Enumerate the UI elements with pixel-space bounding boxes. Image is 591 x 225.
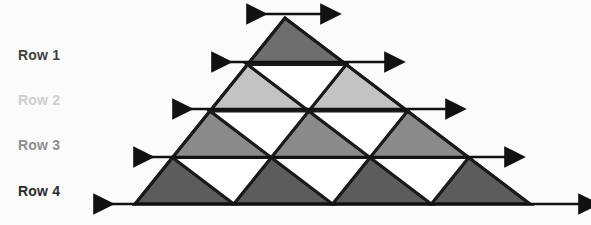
triangle-fills: [135, 18, 530, 204]
row-label-4-text: Row 4: [18, 183, 60, 199]
row-label-2: Row 2: [18, 92, 60, 108]
triangle-diagram-svg: [0, 0, 591, 225]
triangle-figure: Row 1 Row 2 Row 3 Row 4: [0, 0, 591, 225]
row-label-4: Row 4: [18, 183, 60, 199]
row-label-2-text: Row 2: [18, 92, 60, 108]
row-label-3-text: Row 3: [18, 137, 60, 153]
row-label-1: Row 1: [18, 47, 60, 63]
row-label-3: Row 3: [18, 137, 60, 153]
row-1-up-triangle-1: [248, 18, 347, 65]
row-label-1-text: Row 1: [18, 47, 60, 63]
